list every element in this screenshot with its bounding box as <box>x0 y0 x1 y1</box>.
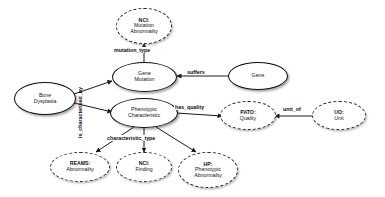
edge-characteristic-type-hp <box>156 127 196 152</box>
node-nci-mutation-abnormality[interactable]: NCI: Mutation Abnormality <box>116 8 172 44</box>
node-nci-finding-text: NCI: Finding <box>132 161 155 172</box>
node-bone-dysplasia[interactable]: Bone Dysplasia <box>14 82 76 115</box>
edge-label-unit-of: unit_of <box>282 106 302 112</box>
node-hp-phenotypic-abnormality[interactable]: HP: Phenotypic Abnormality <box>178 152 238 188</box>
node-line-2: Characteristic <box>128 113 160 119</box>
edge-label-mutation-type: mutation_type <box>113 47 151 53</box>
node-gene-mutation[interactable]: Gene Mutation <box>112 62 177 92</box>
node-line-1: Finding <box>135 167 152 173</box>
node-line-2: Mutation <box>134 77 154 83</box>
node-line-1: Quality <box>240 116 256 122</box>
node-line-2: Dysplasia <box>34 99 57 105</box>
edge-label-characteristic-type: characteristic_type <box>106 135 156 141</box>
node-gene[interactable]: Gene <box>228 62 288 90</box>
node-gene-mutation-text: Gene Mutation <box>131 71 157 82</box>
node-reams-abnormality[interactable]: REAMS: Abnormality <box>50 152 110 182</box>
node-hp-phenotypic-abnormality-text: HP: Phenotypic Abnormality <box>191 162 225 179</box>
node-line-2: Abnormality <box>194 173 222 179</box>
node-bone-dysplasia-text: Bone Dysplasia <box>31 93 60 104</box>
ontology-diagram: NCI: Mutation Abnormality Gene Mutation … <box>0 0 385 197</box>
node-reams-abnormality-text: REAMS: Abnormality <box>63 161 97 172</box>
node-gene-text: Gene <box>249 73 268 79</box>
node-line-1: Unit <box>334 116 344 122</box>
node-uo-unit-text: UO: Unit <box>331 110 347 121</box>
edge-label-is-characterised-by: is_characterised_by <box>77 86 83 139</box>
node-pato-quality[interactable]: PATO: Quality <box>220 101 276 130</box>
node-nci-mutation-abnormality-text: NCI: Mutation Abnormality <box>127 18 161 35</box>
edge-has-quality <box>176 113 222 116</box>
node-line-2: Abnormality <box>130 29 158 35</box>
node-pato-quality-text: PATO: Quality <box>237 110 259 121</box>
edge-label-suffers: suffers <box>186 69 206 75</box>
edge-label-has-quality: has_quality <box>174 104 205 110</box>
node-uo-unit[interactable]: UO: Unit <box>312 101 366 130</box>
node-phenotypic-characteristic[interactable]: Phenotypic Characteristic <box>110 98 178 128</box>
node-phenotypic-characteristic-text: Phenotypic Characteristic <box>125 107 163 118</box>
node-nci-finding[interactable]: NCI: Finding <box>116 152 172 182</box>
node-line-1: Abnormality <box>66 167 94 173</box>
node-line-1: Gene <box>252 73 265 79</box>
